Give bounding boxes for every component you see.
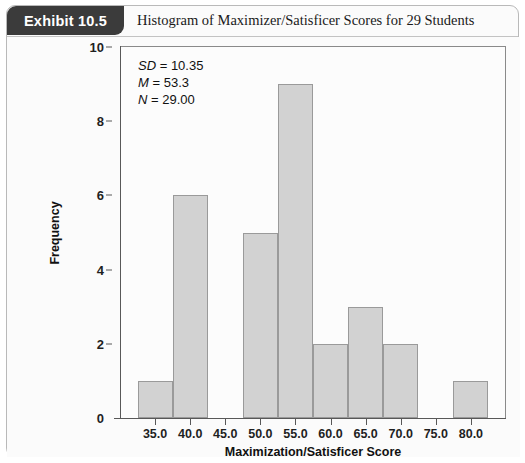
x-tick-label: 45.0 xyxy=(213,427,237,441)
y-tick-mark xyxy=(106,121,112,122)
y-axis-title: Frequency xyxy=(48,201,62,264)
x-tick-label: 35.0 xyxy=(143,427,167,441)
histogram-bar xyxy=(348,307,383,418)
stat-n: N = 29.00 xyxy=(138,91,203,108)
stat-sd-label: SD xyxy=(138,58,156,73)
x-axis-line xyxy=(114,418,506,419)
x-tick-mark xyxy=(260,419,261,425)
exhibit-card: Exhibit 10.5 Histogram of Maximizer/Sati… xyxy=(6,5,519,457)
x-tick-mark xyxy=(225,419,226,425)
exhibit-header: Exhibit 10.5 Histogram of Maximizer/Sati… xyxy=(7,6,518,36)
x-tick-label: 55.0 xyxy=(283,427,307,441)
x-tick-mark xyxy=(331,419,332,425)
x-tick-mark xyxy=(366,419,367,425)
statistics-annotation: SD = 10.35 M = 53.3 N = 29.00 xyxy=(138,57,203,108)
histogram-bar xyxy=(313,344,348,418)
y-axis-line xyxy=(120,46,121,419)
x-tick-mark xyxy=(295,419,296,425)
exhibit-badge: Exhibit 10.5 xyxy=(7,6,124,35)
x-tick-label: 60.0 xyxy=(318,427,342,441)
x-tick-mark xyxy=(471,419,472,425)
y-tick-label: 2 xyxy=(97,336,104,351)
stat-sd-value: = 10.35 xyxy=(160,58,204,73)
x-tick-mark xyxy=(401,419,402,425)
x-tick-label: 70.0 xyxy=(389,427,413,441)
stat-mean: M = 53.3 xyxy=(138,74,203,91)
stat-n-value: = 29.00 xyxy=(151,92,195,107)
y-tick-label: 0 xyxy=(97,411,104,426)
y-tick-mark xyxy=(106,195,112,196)
histogram-bar xyxy=(383,344,418,418)
x-tick-mark xyxy=(190,419,191,425)
exhibit-title: Histogram of Maximizer/Satisficer Scores… xyxy=(137,6,474,35)
y-tick-mark xyxy=(106,47,112,48)
y-tick-mark xyxy=(106,269,112,270)
y-tick-mark xyxy=(106,343,112,344)
stat-n-label: N xyxy=(138,92,147,107)
y-tick-label: 10 xyxy=(90,40,104,55)
x-axis-title: Maximization/Satisficer Score xyxy=(120,445,506,459)
histogram-bar xyxy=(173,195,208,418)
y-tick-label: 6 xyxy=(97,188,104,203)
stat-sd: SD = 10.35 xyxy=(138,57,203,74)
histogram-bar xyxy=(243,233,278,419)
histogram-bar xyxy=(453,381,488,418)
stat-mean-label: M xyxy=(138,75,149,90)
x-tick-label: 65.0 xyxy=(353,427,377,441)
histogram-bar xyxy=(138,381,173,418)
x-tick-label: 50.0 xyxy=(248,427,272,441)
y-tick-label: 8 xyxy=(97,114,104,129)
stat-mean-value: = 53.3 xyxy=(152,75,189,90)
histogram-chart: 0246810 Frequency SD = 10.35 M = 53.3 N … xyxy=(7,37,520,457)
x-tick-label: 75.0 xyxy=(424,427,448,441)
histogram-bar xyxy=(278,84,313,418)
y-tick-label: 4 xyxy=(97,262,104,277)
x-tick-mark xyxy=(436,419,437,425)
x-tick-mark xyxy=(155,419,156,425)
y-axis: 0246810 xyxy=(7,37,120,429)
x-tick-label: 40.0 xyxy=(178,427,202,441)
x-tick-label: 80.0 xyxy=(459,427,483,441)
